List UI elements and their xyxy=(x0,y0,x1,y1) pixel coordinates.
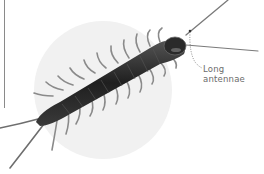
annotation-line-1: Long xyxy=(203,64,245,74)
leader-line xyxy=(190,32,202,68)
rear-legs xyxy=(0,118,44,168)
antennae xyxy=(186,0,258,51)
centipede-head xyxy=(164,37,186,55)
centipede-illustration xyxy=(0,0,264,174)
leader-dot xyxy=(189,30,192,33)
annotation-label: Long antennae xyxy=(203,64,245,84)
figure-frame: Long antennae xyxy=(0,0,264,174)
annotation-line-2: antennae xyxy=(203,74,245,84)
